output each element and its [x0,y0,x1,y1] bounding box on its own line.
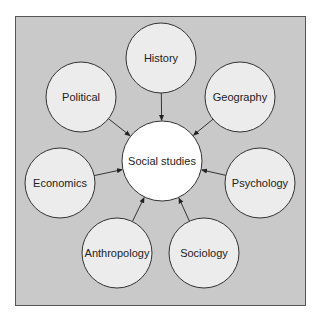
node-label: History [144,52,179,64]
node-sociology: Sociology [169,218,239,288]
node-label: Psychology [232,177,289,189]
node-label: Sociology [180,247,228,259]
node-history: History [126,23,196,93]
node-geography: Geography [205,62,275,132]
social-studies-diagram: HistoryGeographyPsychologySociologyAnthr… [0,0,319,322]
node-label: Economics [33,177,87,189]
center-label: Social studies [128,155,196,167]
node-label: Political [62,91,100,103]
node-economics: Economics [25,148,95,218]
node-label: Anthropology [85,247,150,259]
node-political: Political [46,62,116,132]
center-node: Social studies [122,121,202,201]
node-psychology: Psychology [225,148,295,218]
node-label: Geography [213,91,268,103]
node-anthropology: Anthropology [82,218,152,288]
